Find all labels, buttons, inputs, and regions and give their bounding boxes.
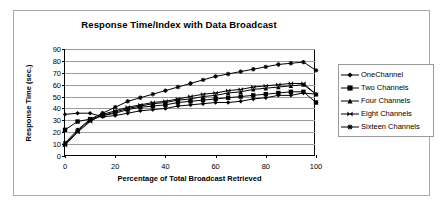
plot-area: 0102030405060708090 020406080100 — [64, 49, 315, 156]
legend-item-sixteen-channels[interactable]: Sixteen Channels — [341, 120, 430, 133]
legend-label: Four Channels — [361, 96, 410, 105]
legend-item-two-channels[interactable]: Two Channels — [341, 81, 430, 94]
legend-marker-triangle-icon — [341, 96, 359, 106]
y-axis-tick-label: 70 — [53, 68, 61, 77]
chart-frame: Response Time/Index with Data Broadcast … — [13, 10, 430, 196]
legend-item-onechannel[interactable]: OneChannel — [341, 68, 430, 81]
x-axis-tick-label: 0 — [63, 162, 67, 171]
chart-title: Response Time/Index with Data Broadcast — [14, 19, 344, 30]
legend-label: Sixteen Channels — [361, 122, 420, 131]
legend-marker-bowtie-icon — [341, 109, 359, 119]
x-axis-tick-label: 80 — [262, 162, 270, 171]
y-axis-tick-label: 90 — [53, 45, 61, 54]
x-axis-tick-label: 40 — [161, 162, 169, 171]
y-axis-tick-label: 60 — [53, 80, 61, 89]
legend-marker-asterisk-icon — [341, 122, 359, 132]
series-lines — [65, 49, 316, 156]
x-axis-tick-label: 60 — [211, 162, 219, 171]
legend-item-four-channels[interactable]: Four Channels — [341, 94, 430, 107]
y-axis-tick-label: 0 — [57, 152, 61, 161]
y-axis-tick-label: 80 — [53, 56, 61, 65]
x-axis-title: Percentage of Total Broadcast Retrieved — [64, 174, 315, 183]
y-axis-tick-label: 30 — [53, 116, 61, 125]
y-axis-tick-label: 40 — [53, 104, 61, 113]
legend-label: Two Channels — [361, 83, 409, 92]
chart-legend: OneChannelTwo ChannelsFour ChannelsEight… — [338, 64, 434, 137]
plot-canvas: 0102030405060708090 020406080100 — [64, 49, 315, 156]
y-axis-title-label: Response Time (sec.) — [24, 64, 33, 141]
legend-item-eight-channels[interactable]: Eight Channels — [341, 107, 430, 120]
legend-marker-square-icon — [341, 83, 359, 93]
y-axis-tick-label: 50 — [53, 92, 61, 101]
legend-marker-diamond-icon — [341, 70, 359, 80]
x-axis-tick-label: 100 — [310, 162, 323, 171]
legend-label: OneChannel — [361, 70, 403, 79]
x-axis-tick — [316, 155, 317, 158]
y-axis-tick-label: 10 — [53, 140, 61, 149]
legend-label: Eight Channels — [361, 109, 412, 118]
x-axis-tick-label: 20 — [111, 162, 119, 171]
y-axis-tick-label: 20 — [53, 128, 61, 137]
y-axis-title: Response Time (sec.) — [22, 49, 34, 156]
